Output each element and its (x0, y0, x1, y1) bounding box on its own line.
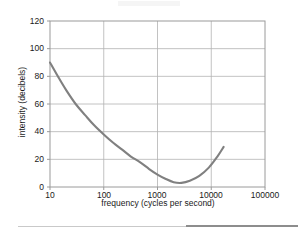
data-series-threshold-of-hearing (50, 63, 224, 183)
footer-rule-dark (186, 225, 298, 227)
figure-container: 120 100 80 60 40 20 0 10 100 1000 10000 … (0, 0, 299, 235)
y-axis-label: intensity (decibels) (17, 42, 27, 162)
line-chart (0, 0, 299, 212)
plot-area: 120 100 80 60 40 20 0 10 100 1000 10000 … (0, 0, 299, 212)
y-tick-label-120: 120 (20, 17, 44, 26)
x-axis-label: frequency (cycles per second) (50, 198, 266, 208)
footer-rule-light (18, 226, 186, 227)
